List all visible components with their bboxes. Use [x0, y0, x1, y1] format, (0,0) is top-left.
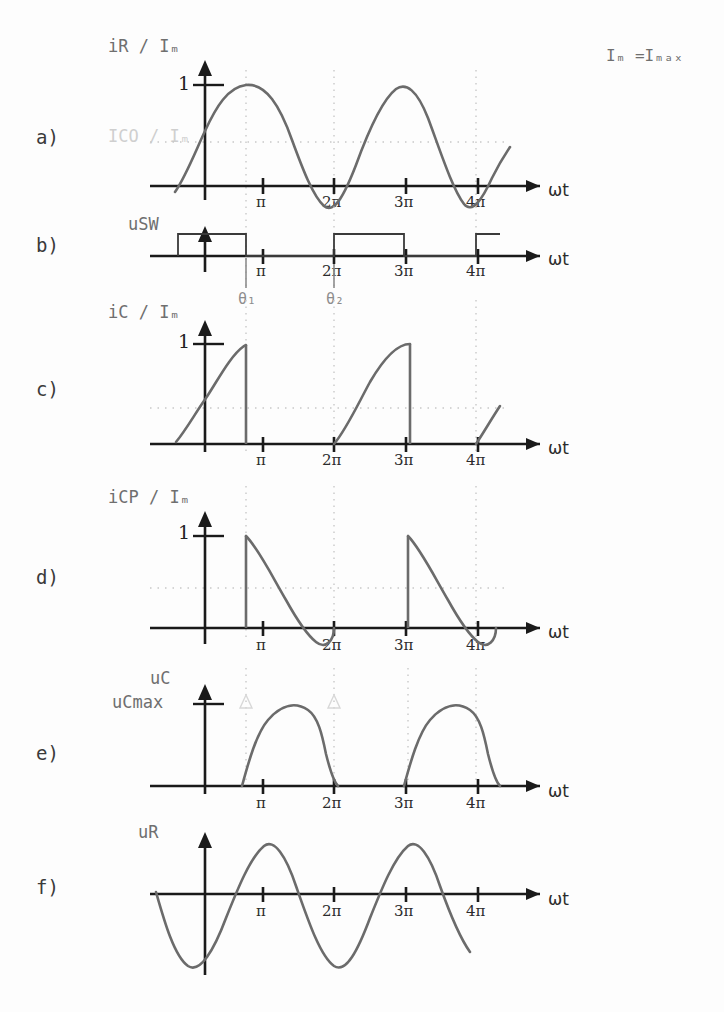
- panel-c-curve-3: [476, 406, 500, 444]
- panel-d-tick-3pi: 3π: [394, 636, 413, 654]
- panel-b-x-arrow: [526, 250, 540, 262]
- panel-f-curve: [156, 844, 470, 967]
- panel-c-tick-pi: π: [256, 451, 266, 469]
- panel-d-curve-1: [246, 536, 334, 645]
- panel-c-curve-1: [176, 345, 246, 442]
- panel-a-tick-2pi: 2π: [322, 193, 341, 211]
- panel-c-x-arrow: [526, 438, 540, 450]
- panel-e-marker-arrow-1: [240, 695, 252, 708]
- panel-b-tick-2pi: 2π: [322, 262, 341, 280]
- panel-b-y-arrow: [198, 226, 212, 242]
- panel-f-tick-4pi: 4π: [466, 902, 485, 920]
- panel-a-x-arrow: [526, 180, 540, 192]
- panel-e-y-label: uC: [150, 668, 170, 688]
- theta2-label: θ₂: [326, 290, 344, 308]
- panel-f-y-label: uR: [138, 822, 158, 842]
- panel-d-tick-pi: π: [256, 636, 266, 654]
- panel-f-tick-2pi: 2π: [322, 902, 341, 920]
- panel-letter-d: d): [36, 566, 59, 588]
- panel-e-tick-2pi: 2π: [322, 794, 341, 812]
- panel-d-x-arrow: [526, 622, 540, 634]
- panel-e-x-arrow: [526, 780, 540, 792]
- panel-d-y-arrow: [198, 511, 212, 527]
- panel-a-curve: [175, 85, 510, 208]
- panel-e-hump-2: [404, 705, 500, 786]
- panel-c-tick-2pi: 2π: [322, 451, 341, 469]
- panel-c-y-label: iC / Iₘ: [108, 302, 180, 322]
- panel-a-secondary-label: ICO / Iₘ: [108, 126, 190, 146]
- panel-d-y-label: iCP / Iₘ: [108, 487, 190, 507]
- panel-d-curve-2: [408, 536, 496, 645]
- panel-d-axis-label: ωt: [548, 622, 569, 642]
- panel-letter-b: b): [36, 234, 59, 256]
- panel-e-axis-label: ωt: [548, 781, 569, 801]
- panel-e-tick-pi: π: [256, 794, 266, 812]
- panel-d-tick-4pi: 4π: [466, 636, 485, 654]
- panel-d-one-label: 1: [178, 521, 190, 543]
- panel-f-tick-pi: π: [256, 902, 266, 920]
- figure-sheet: Iₘ =Iₘₐₓ a) iR / Iₘ ICO / Iₘ 1 ωt π 2π 3…: [0, 0, 724, 1012]
- panel-b-y-label: uSW: [128, 214, 159, 234]
- panel-b-pulse-train: [178, 234, 500, 256]
- panel-f-axis-label: ωt: [548, 889, 569, 909]
- panel-e-hump-1: [242, 705, 338, 786]
- theta1-label: θ₁: [238, 290, 256, 308]
- panel-a-tick-3pi: 3π: [394, 193, 413, 211]
- panel-f-tick-3pi: 3π: [394, 902, 413, 920]
- panel-d-tick-2pi: 2π: [322, 636, 341, 654]
- panel-b-tick-4pi: 4π: [466, 262, 485, 280]
- panel-b-tick-3pi: 3π: [394, 262, 413, 280]
- panel-b-tick-pi: π: [256, 262, 266, 280]
- panel-c-tick-4pi: 4π: [466, 451, 485, 469]
- panel-c-axis-label: ωt: [548, 438, 569, 458]
- panel-c-one-label: 1: [178, 330, 190, 352]
- panel-letter-e: e): [36, 742, 59, 764]
- panel-a-tick-4pi: 4π: [466, 193, 485, 211]
- note-im-equals-imax: Iₘ =Iₘₐₓ: [606, 46, 683, 65]
- panel-e-secondary-label: uCmax: [112, 692, 163, 712]
- panel-a-y-label: iR / Iₘ: [108, 36, 180, 56]
- panel-c-y-arrow: [198, 320, 212, 336]
- panel-a-tick-pi: π: [256, 193, 266, 211]
- panel-e-marker-arrow-2: [328, 695, 340, 708]
- panel-f-x-arrow: [526, 888, 540, 900]
- panel-a-axis-label: ωt: [548, 180, 569, 200]
- panel-letter-f: f): [36, 876, 59, 898]
- panel-e-tick-3pi: 3π: [394, 794, 413, 812]
- panel-a-y-arrow: [198, 60, 212, 76]
- panel-letter-c: c): [36, 378, 59, 400]
- panel-b-axis-label: ωt: [548, 249, 569, 269]
- panel-c-tick-3pi: 3π: [394, 451, 413, 469]
- panel-e-y-arrow: [198, 684, 212, 700]
- panel-a-one-label: 1: [178, 72, 190, 94]
- panel-e-tick-4pi: 4π: [466, 794, 485, 812]
- panel-f-y-arrow: [198, 832, 212, 848]
- panel-letter-a: a): [36, 126, 59, 148]
- panel-c-curve-2: [334, 344, 410, 444]
